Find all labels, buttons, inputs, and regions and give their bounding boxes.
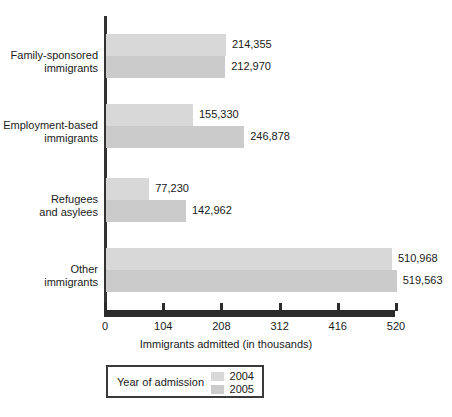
category-label-line: Other bbox=[0, 263, 98, 276]
x-axis-tick-label: 0 bbox=[102, 320, 108, 332]
bar-chart: Family-sponsoredimmigrants214,355212,970… bbox=[0, 0, 452, 417]
category-label: Otherimmigrants bbox=[0, 263, 98, 289]
bar-2005[interactable] bbox=[106, 126, 244, 148]
bar-group: Employment-basedimmigrants155,330246,878 bbox=[0, 104, 452, 148]
category-label: Employment-basedimmigrants bbox=[0, 119, 98, 145]
bar-value-label: 214,355 bbox=[232, 38, 272, 50]
bar-value-label: 142,962 bbox=[192, 204, 232, 216]
x-axis-tick-label: 104 bbox=[154, 320, 172, 332]
bar-2004[interactable] bbox=[106, 104, 193, 126]
bar-group: Refugeesand asylees77,230142,962 bbox=[0, 178, 452, 222]
bar-group: Family-sponsoredimmigrants214,355212,970 bbox=[0, 34, 452, 78]
legend-entry: 2005 bbox=[211, 383, 254, 395]
bar-2004[interactable] bbox=[106, 178, 149, 200]
bar-value-label: 246,878 bbox=[250, 130, 290, 142]
category-label-line: Refugees bbox=[0, 193, 98, 206]
legend-title: Year of admission bbox=[117, 376, 204, 388]
legend-swatch bbox=[211, 372, 224, 381]
bar-row bbox=[106, 126, 244, 148]
bar-2005[interactable] bbox=[106, 270, 397, 292]
x-axis-tick bbox=[104, 303, 107, 311]
legend-swatch bbox=[211, 385, 224, 394]
x-axis-tick-label: 416 bbox=[329, 320, 347, 332]
bar-value-label: 155,330 bbox=[199, 108, 239, 120]
plot-area: Family-sponsoredimmigrants214,355212,970… bbox=[0, 0, 452, 330]
bar-row bbox=[106, 248, 392, 270]
legend-label: 2004 bbox=[230, 370, 254, 382]
x-axis-tick bbox=[162, 303, 165, 311]
legend: Year of admission 20042005 bbox=[106, 365, 264, 398]
legend-entry: 2004 bbox=[211, 370, 254, 382]
bar-value-label: 212,970 bbox=[231, 60, 271, 72]
x-axis-tick bbox=[220, 303, 223, 311]
bar-row bbox=[106, 34, 226, 56]
x-axis-tick bbox=[395, 303, 398, 311]
legend-entries: 20042005 bbox=[211, 370, 254, 396]
bar-2005[interactable] bbox=[106, 56, 225, 78]
bar-row bbox=[106, 178, 149, 200]
category-label-line: Employment-based bbox=[0, 119, 98, 132]
x-axis-tick-label: 520 bbox=[387, 320, 405, 332]
bar-group: Otherimmigrants510,968519,563 bbox=[0, 248, 452, 292]
x-axis-title: Immigrants admitted (in thousands) bbox=[0, 338, 452, 350]
bar-value-label: 519,563 bbox=[403, 274, 443, 286]
x-axis-line bbox=[104, 310, 395, 317]
legend-label: 2005 bbox=[230, 383, 254, 395]
bar-value-label: 77,230 bbox=[155, 182, 189, 194]
category-label-line: Family-sponsored bbox=[0, 49, 98, 62]
bar-2005[interactable] bbox=[106, 200, 186, 222]
category-label: Family-sponsoredimmigrants bbox=[0, 49, 98, 75]
bar-row bbox=[106, 104, 193, 126]
bar-row bbox=[106, 56, 225, 78]
category-label-line: immigrants bbox=[0, 276, 98, 289]
x-axis-tick-label: 208 bbox=[212, 320, 230, 332]
category-label-line: immigrants bbox=[0, 62, 98, 75]
bar-row bbox=[106, 270, 397, 292]
x-axis-tick-label: 312 bbox=[270, 320, 288, 332]
bar-2004[interactable] bbox=[106, 34, 226, 56]
category-label: Refugeesand asylees bbox=[0, 193, 98, 219]
bar-2004[interactable] bbox=[106, 248, 392, 270]
x-axis-tick bbox=[279, 303, 282, 311]
bar-value-label: 510,968 bbox=[398, 252, 438, 264]
x-axis-tick bbox=[337, 303, 340, 311]
bar-row bbox=[106, 200, 186, 222]
category-label-line: immigrants bbox=[0, 132, 98, 145]
category-label-line: and asylees bbox=[0, 206, 98, 219]
